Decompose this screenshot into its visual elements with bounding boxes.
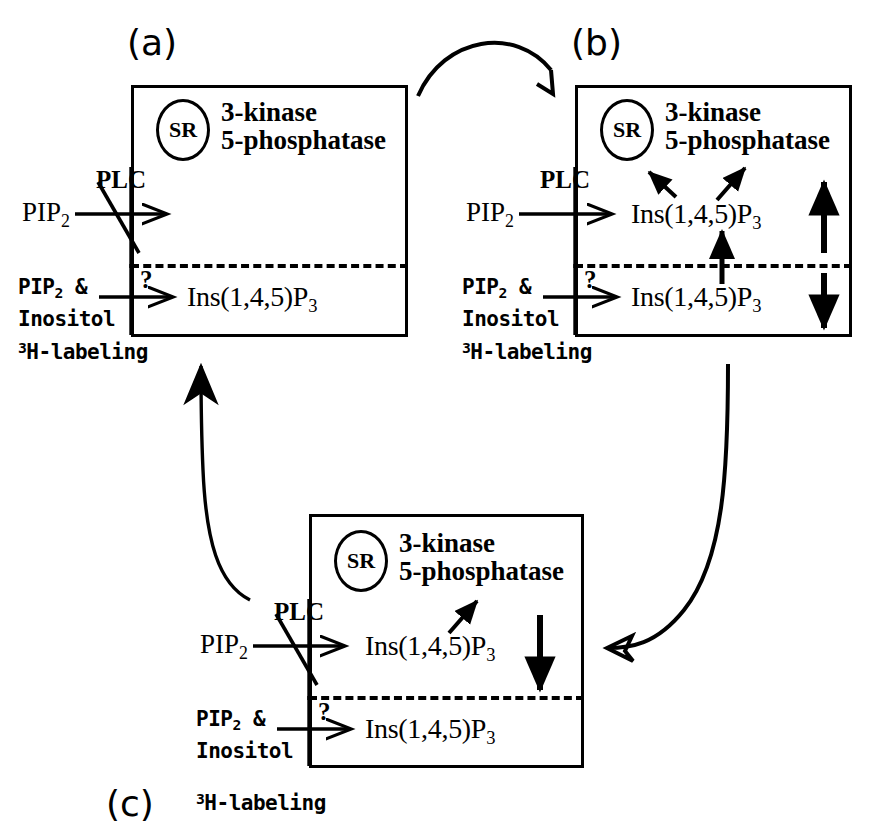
panel-b-pip2and-subscript: 2 xyxy=(498,284,506,301)
panel-c-inositol: Inositol xyxy=(196,739,293,763)
panel-a-pip2and-subscript: 2 xyxy=(54,284,62,301)
panel-a-lower-product: Ins(1,4,5)P3 xyxy=(187,281,317,317)
panel-c-plc-label: PLC xyxy=(274,598,324,626)
panel-a-pip2-label: PIP2 xyxy=(22,197,70,232)
panel-a-pip2and-text: PIP xyxy=(18,275,54,299)
panel-a-h-text: H-labeling xyxy=(26,340,147,364)
panel-a-lower-substrate: PIP2 & xyxy=(18,275,87,301)
flow-arrow-c-to-a xyxy=(186,366,250,600)
panel-b-inositol: Inositol xyxy=(462,307,559,331)
panel-c-lower-product: Ins(1,4,5)P3 xyxy=(365,713,495,749)
panel-a-h-labeling: 3H-labeling xyxy=(18,339,148,364)
panel-c-membrane-divider xyxy=(309,696,584,700)
panel-b-upper-product-text: Ins(1,4,5)P xyxy=(631,198,752,229)
panel-b-question-mark: ? xyxy=(584,266,597,294)
panel-a-sr-organelle: SR xyxy=(156,99,210,161)
panel-a-question-mark: ? xyxy=(140,266,153,294)
panel-b-upper-product-subscript: 3 xyxy=(752,213,761,233)
panel-c-pip2-text: PIP xyxy=(200,629,239,659)
panel-c-sr-organelle: SR xyxy=(334,530,388,592)
panel-b-enzyme-2: 5-phosphatase xyxy=(665,126,830,154)
panel-b-label: (b) xyxy=(571,25,622,61)
panel-b-pip2-label: PIP2 xyxy=(466,197,514,232)
panel-c-question-mark: ? xyxy=(318,698,331,726)
panel-a-plc-label: PLC xyxy=(96,166,146,194)
panel-a-label: (a) xyxy=(127,25,177,61)
panel-b-h-text: H-labeling xyxy=(470,340,591,364)
panel-c-enzyme-1: 3-kinase xyxy=(399,529,564,557)
panel-b-pip2-text: PIP xyxy=(466,197,505,227)
figure-canvas: (a) SR 3-kinase 5-phosphatase PLC PIP2 ?… xyxy=(0,0,871,837)
flow-arrow-a-to-b xyxy=(418,43,553,96)
panel-b-h-labeling: 3H-labeling xyxy=(462,339,592,364)
panel-c-pip2and-text: PIP xyxy=(196,707,232,731)
panel-b-pip2and-text: PIP xyxy=(462,275,498,299)
panel-c-sr-label: SR xyxy=(347,548,375,574)
panel-a-enzyme-2: 5-phosphatase xyxy=(221,126,386,154)
panel-c-pip2and-subscript: 2 xyxy=(232,716,240,733)
panel-a-lower-product-subscript: 3 xyxy=(308,296,317,316)
flow-arrow-b-to-c xyxy=(607,364,728,661)
panel-a-enzyme-1: 3-kinase xyxy=(221,98,386,126)
panel-b-enzyme-list: 3-kinase 5-phosphatase xyxy=(665,98,830,154)
panel-c-lower-substrate: PIP2 & xyxy=(196,707,265,733)
panel-b-pip2-subscript: 2 xyxy=(505,211,514,231)
panel-a-lower-product-text: Ins(1,4,5)P xyxy=(187,281,308,312)
panel-a-inositol: Inositol xyxy=(18,307,115,331)
panel-b-lower-product-text: Ins(1,4,5)P xyxy=(631,281,752,312)
panel-a-pip2-text: PIP xyxy=(22,197,61,227)
panel-b-sr-label: SR xyxy=(613,117,641,143)
panel-b-pip2and-tail: & xyxy=(507,275,531,299)
panel-c-upper-product-text: Ins(1,4,5)P xyxy=(365,630,486,661)
panel-a-membrane-divider xyxy=(131,264,408,268)
panel-a-enzyme-list: 3-kinase 5-phosphatase xyxy=(221,98,386,154)
panel-c-label: (c) xyxy=(106,786,154,822)
panel-b-lower-product-subscript: 3 xyxy=(752,296,761,316)
panel-c-pip2-label: PIP2 xyxy=(200,629,248,664)
panel-a-pip2-subscript: 2 xyxy=(61,211,70,231)
panel-b-lower-substrate: PIP2 & xyxy=(462,275,531,301)
panel-a-pip2and-tail: & xyxy=(63,275,87,299)
panel-b-upper-product: Ins(1,4,5)P3 xyxy=(631,198,761,234)
panel-b-enzyme-1: 3-kinase xyxy=(665,98,830,126)
panel-c-h-labeling: 3H-labeling xyxy=(196,790,326,815)
panel-c-enzyme-list: 3-kinase 5-phosphatase xyxy=(399,529,564,585)
panel-c-lower-product-text: Ins(1,4,5)P xyxy=(365,713,486,744)
panel-a-sr-label: SR xyxy=(169,117,197,143)
panel-b-lower-product: Ins(1,4,5)P3 xyxy=(631,281,761,317)
panel-b-plc-label: PLC xyxy=(540,166,590,194)
panel-c-enzyme-2: 5-phosphatase xyxy=(399,557,564,585)
panel-b-sr-organelle: SR xyxy=(600,99,654,161)
panel-c-upper-product: Ins(1,4,5)P3 xyxy=(365,630,495,666)
panel-c-h-text: H-labeling xyxy=(204,791,325,815)
panel-c-upper-product-subscript: 3 xyxy=(486,645,495,665)
panel-c-lower-product-subscript: 3 xyxy=(486,728,495,748)
panel-c-pip2and-tail: & xyxy=(241,707,265,731)
panel-c-pip2-subscript: 2 xyxy=(239,643,248,663)
panel-b-membrane-divider xyxy=(575,264,852,268)
